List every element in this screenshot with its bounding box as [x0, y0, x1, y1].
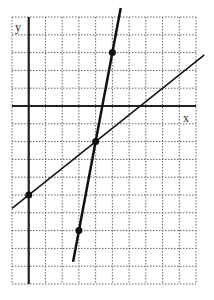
series-line — [73, 8, 121, 262]
data-point — [75, 227, 82, 234]
data-point — [25, 192, 32, 199]
graph — [0, 0, 214, 300]
x-axis-label: x — [183, 111, 189, 126]
y-axis-label: y — [15, 20, 21, 35]
data-point — [109, 49, 116, 56]
data-point — [92, 138, 99, 145]
